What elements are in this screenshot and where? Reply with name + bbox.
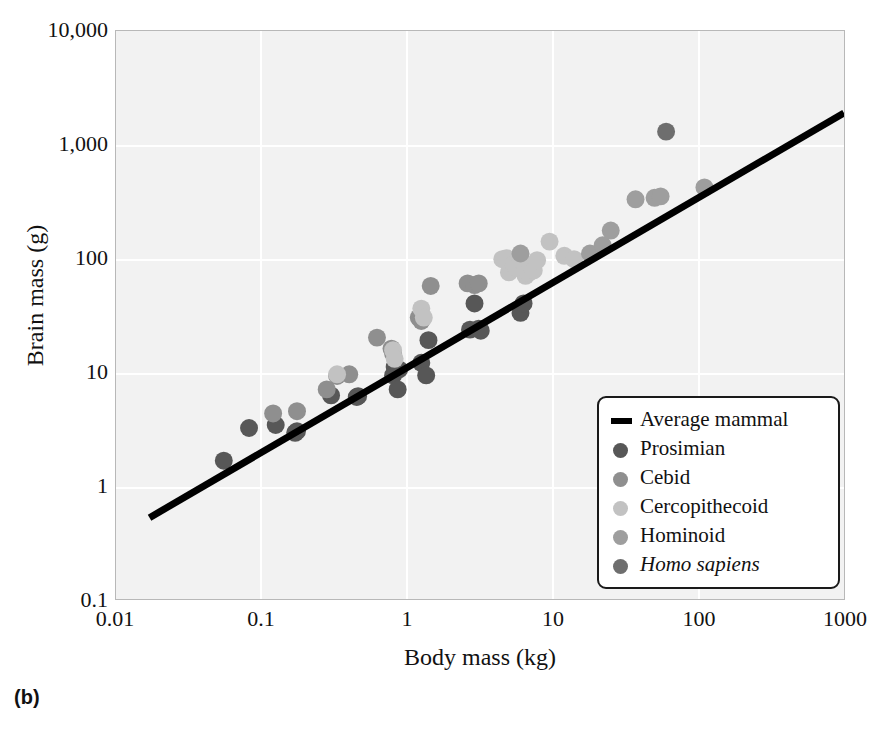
y-tick-label: 10,000 — [48, 17, 109, 43]
legend-item-label: Prosimian — [640, 438, 725, 459]
legend-dot-swatch-icon — [609, 555, 635, 575]
data-point — [419, 331, 437, 349]
data-point — [541, 233, 559, 251]
y-tick-label: 1,000 — [59, 131, 109, 157]
data-point — [240, 419, 258, 437]
dot-swatch — [613, 472, 628, 487]
dot-swatch — [613, 530, 628, 545]
data-point — [528, 251, 546, 269]
x-tick-label: 0.1 — [247, 606, 275, 632]
data-point — [368, 329, 386, 347]
chart-legend: Average mammalProsimianCebidCercopitheco… — [597, 396, 840, 589]
dot-swatch — [613, 559, 628, 574]
legend-item[interactable]: Homo sapiens — [609, 550, 830, 579]
legend-item-label: Average mammal — [640, 409, 788, 430]
legend-dot-swatch-icon — [609, 468, 635, 488]
y-axis-title: Brain mass (g) — [22, 156, 49, 436]
x-axis-title: Body mass (kg) — [115, 644, 845, 671]
x-tick-label: 1000 — [823, 606, 867, 632]
dot-swatch — [613, 501, 628, 516]
data-point — [328, 365, 346, 383]
legend-item-label: Homo sapiens — [640, 554, 760, 575]
series-cebid — [264, 274, 488, 422]
legend-line-swatch-icon — [609, 410, 635, 430]
legend-item[interactable]: Average mammal — [609, 405, 830, 434]
dot-swatch — [613, 443, 628, 458]
legend-item[interactable]: Prosimian — [609, 434, 830, 463]
data-point — [386, 350, 404, 368]
series-homo-sapiens — [657, 123, 675, 141]
data-point — [417, 366, 435, 384]
x-tick-label: 1 — [402, 606, 413, 632]
data-point — [264, 404, 282, 422]
data-point — [466, 294, 484, 312]
data-point — [512, 245, 530, 263]
x-tick-label: 0.01 — [96, 606, 135, 632]
data-point — [602, 222, 620, 240]
y-tick-label: 1 — [97, 473, 108, 499]
panel-caption: (b) — [14, 686, 40, 709]
figure-panel: 10,000 1,000 100 10 1 0.1 0.01 0.1 1 10 … — [0, 0, 876, 736]
data-point — [415, 309, 433, 327]
data-point — [470, 274, 488, 292]
data-point — [652, 187, 670, 205]
legend-item[interactable]: Cercopithecoid — [609, 492, 830, 521]
series-cercopithecoid — [328, 233, 583, 384]
legend-item-label: Hominoid — [640, 525, 725, 546]
x-tick-label: 100 — [683, 606, 716, 632]
x-tick-label: 10 — [542, 606, 564, 632]
legend-dot-swatch-icon — [609, 439, 635, 459]
data-point — [288, 402, 306, 420]
legend-item[interactable]: Hominoid — [609, 521, 830, 550]
y-axis-ticks: 10,000 1,000 100 10 1 0.1 — [0, 30, 108, 600]
y-tick-label: 10 — [86, 359, 108, 385]
data-point — [657, 123, 675, 141]
line-swatch — [611, 418, 632, 424]
x-axis-ticks: 0.01 0.1 1 10 100 1000 — [115, 606, 845, 640]
legend-dot-swatch-icon — [609, 526, 635, 546]
legend-item-label: Cercopithecoid — [640, 496, 768, 517]
data-point — [627, 190, 645, 208]
data-point — [422, 277, 440, 295]
legend-item[interactable]: Cebid — [609, 463, 830, 492]
data-point — [389, 380, 407, 398]
legend-item-label: Cebid — [640, 467, 690, 488]
y-tick-label: 100 — [75, 245, 108, 271]
legend-dot-swatch-icon — [609, 497, 635, 517]
